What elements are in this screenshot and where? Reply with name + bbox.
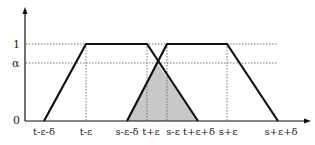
x-axis-arrow-icon <box>304 119 311 124</box>
x-label-t-eps-delta: t-ε-δ <box>33 126 55 137</box>
x-label-t-plus-eps-delta: t+ε+δ <box>183 126 215 137</box>
x-label-t-eps: t-ε <box>80 126 93 137</box>
y-label-one: 1 <box>13 38 20 51</box>
y-label-alpha: α <box>12 57 20 70</box>
x-label-s-plus-eps: s+ε <box>219 126 238 137</box>
fuzzy-membership-diagram: 1 α 0 t-ε-δ t-ε s-ε-δ t+ε s-ε t+ε+δ s+ε … <box>0 0 315 145</box>
x-label-s-eps-delta: s-ε-δ <box>115 126 138 137</box>
x-label-t-plus-eps: t+ε <box>142 126 160 137</box>
y-axis-arrow-icon <box>23 7 28 14</box>
x-label-s-eps: s-ε <box>166 126 180 137</box>
y-label-zero: 0 <box>13 114 20 127</box>
x-label-s-plus-eps-delta: s+ε+δ <box>264 126 297 137</box>
intersection-shaded-region <box>127 63 198 121</box>
